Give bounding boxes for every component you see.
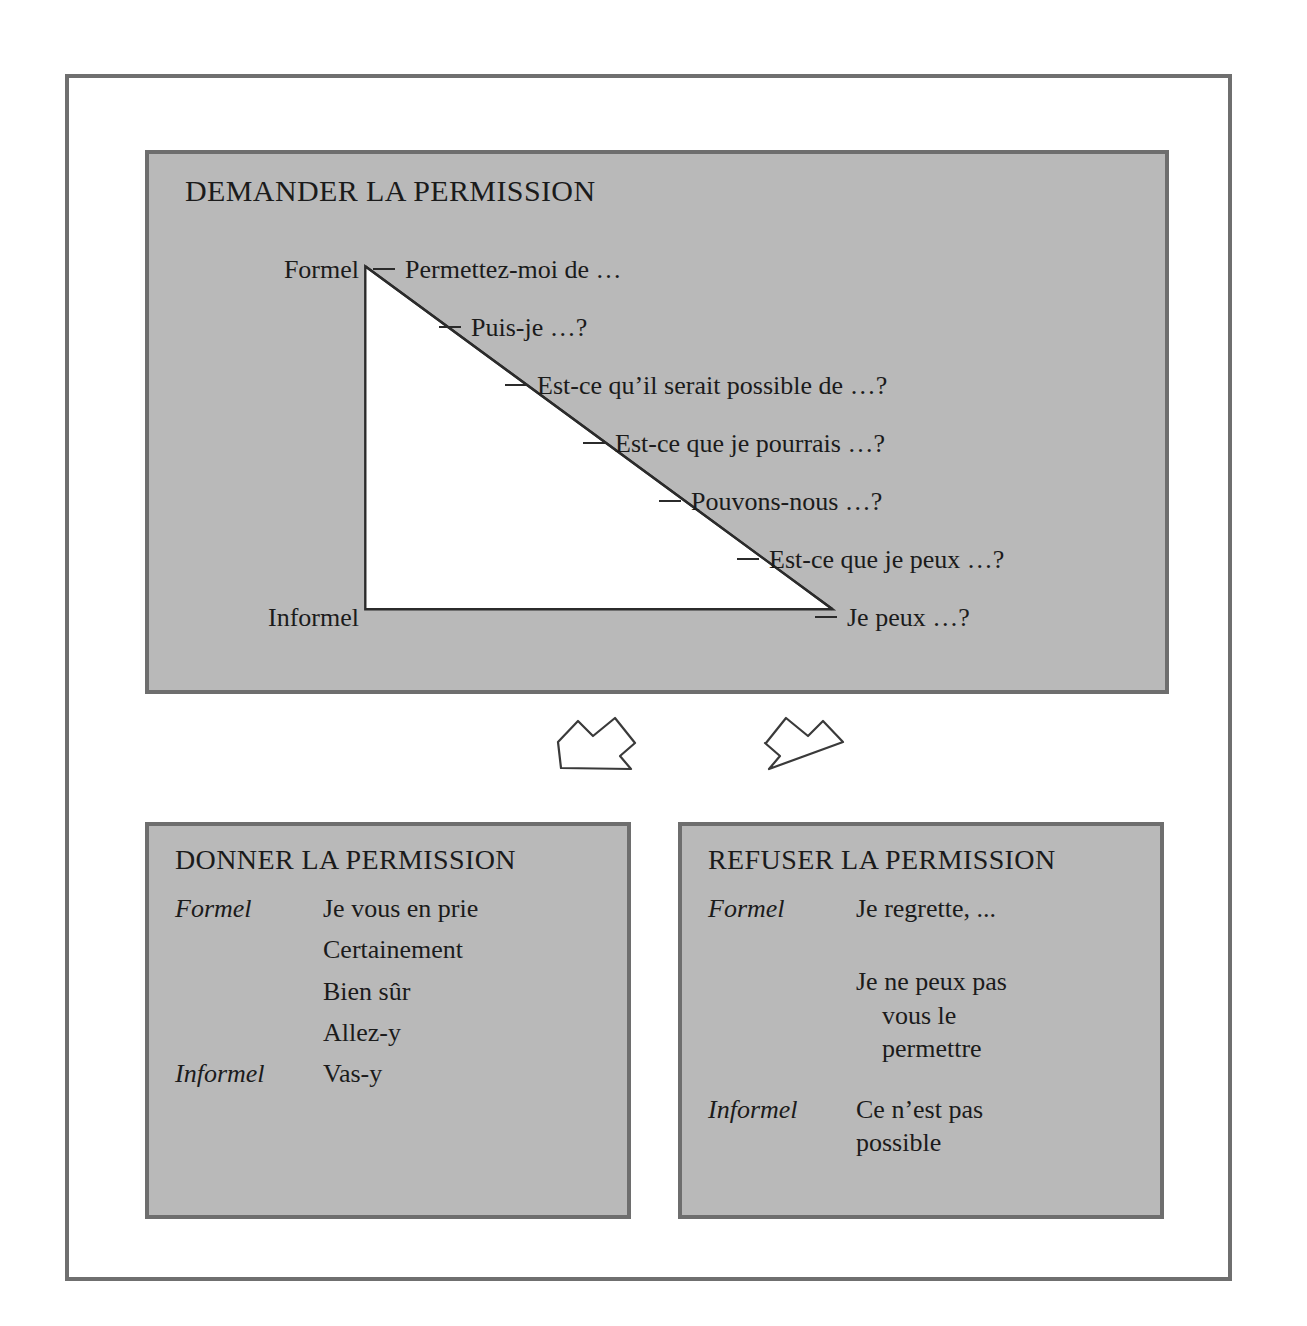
ask-phrase-row: Puis-je …? xyxy=(439,313,587,343)
ask-phrase-text: Est-ce que je pourrais …? xyxy=(615,429,885,458)
phrase-line: Je regrette, ... xyxy=(856,892,996,925)
phrase-line: Allez-y xyxy=(323,1016,401,1049)
arrow-to-give-permission xyxy=(558,718,635,769)
tick-mark xyxy=(737,558,759,560)
tick-mark xyxy=(373,268,395,270)
register-label: Formel xyxy=(708,892,856,925)
register-label: Formel xyxy=(175,892,323,925)
ask-phrase-text: Puis-je …? xyxy=(471,313,587,342)
phrase-cell: Bien sûr xyxy=(323,975,410,1008)
phrase-line: Vas-y xyxy=(323,1057,382,1090)
tick-mark xyxy=(583,442,605,444)
refuse-permission-table: Formel Je regrette, ... Je ne peux pas v… xyxy=(708,892,1138,1168)
register-label: Informel xyxy=(175,1057,323,1090)
phrase-line: Je vous en prie xyxy=(323,892,478,925)
ask-phrase-row: Permettez-moi de … xyxy=(373,255,622,285)
ask-phrase-text: Est-ce qu’il serait possible de …? xyxy=(537,371,887,400)
refuse-permission-panel: REFUSER LA PERMISSION Formel Je regrette… xyxy=(678,822,1164,1219)
tick-mark xyxy=(439,326,461,328)
give-permission-title: DONNER LA PERMISSION xyxy=(175,844,516,876)
ask-phrase-row: Pouvons-nous …? xyxy=(659,487,882,517)
ask-phrase-text: Est-ce que je peux …? xyxy=(769,545,1004,574)
phrase-cell: Ce n’est pas possible xyxy=(856,1093,983,1160)
ask-phrase-row: Est-ce qu’il serait possible de …? xyxy=(505,371,887,401)
table-row: Bien sûr xyxy=(175,975,605,1008)
ask-phrase-text: Permettez-moi de … xyxy=(405,255,622,284)
table-row: Informel Ce n’est pas possible xyxy=(708,1093,1138,1160)
phrase-cell: Certainement xyxy=(323,933,463,966)
phrase-line: possible xyxy=(856,1126,983,1159)
ask-permission-panel: DEMANDER LA PERMISSION Formel Informel P… xyxy=(145,150,1169,694)
table-row: Allez-y xyxy=(175,1016,605,1049)
ask-phrase-row: Est-ce que je pourrais …? xyxy=(583,429,885,459)
phrase-line: vous le xyxy=(856,999,1007,1032)
phrase-cell: Allez-y xyxy=(323,1016,401,1049)
axis-label-informel: Informel xyxy=(169,603,359,633)
phrase-line: permettre xyxy=(856,1032,1007,1065)
ask-phrase-text: Je peux …? xyxy=(847,603,970,632)
ask-phrase-text: Pouvons-nous …? xyxy=(691,487,882,516)
give-permission-table: Formel Je vous en prie Certainement Bien… xyxy=(175,892,605,1098)
table-row: Informel Vas-y xyxy=(175,1057,605,1090)
tick-mark xyxy=(815,616,837,618)
phrase-line: Certainement xyxy=(323,933,463,966)
phrase-line: Je ne peux pas xyxy=(856,965,1007,998)
refuse-permission-title: REFUSER LA PERMISSION xyxy=(708,844,1056,876)
axis-label-formel: Formel xyxy=(189,255,359,285)
outer-frame: DEMANDER LA PERMISSION Formel Informel P… xyxy=(65,74,1232,1281)
give-permission-panel: DONNER LA PERMISSION Formel Je vous en p… xyxy=(145,822,631,1219)
phrase-line: Ce n’est pas xyxy=(856,1093,983,1126)
table-row: Formel Je regrette, ... xyxy=(708,892,1138,925)
phrase-cell: Je regrette, ... xyxy=(856,892,996,925)
phrase-cell: Je ne peux pas vous le permettre xyxy=(856,965,1007,1065)
phrase-cell: Je vous en prie xyxy=(323,892,478,925)
table-row: Certainement xyxy=(175,933,605,966)
phrase-cell: Vas-y xyxy=(323,1057,382,1090)
register-label: Informel xyxy=(708,1093,856,1126)
table-row: Formel Je vous en prie xyxy=(175,892,605,925)
ask-phrase-row: Est-ce que je peux …? xyxy=(737,545,1004,575)
arrow-to-refuse-permission xyxy=(765,718,843,769)
tick-mark xyxy=(505,384,527,386)
tick-mark xyxy=(659,500,681,502)
table-row: Je ne peux pas vous le permettre xyxy=(708,965,1138,1065)
phrase-line: Bien sûr xyxy=(323,975,410,1008)
ask-permission-title: DEMANDER LA PERMISSION xyxy=(185,174,596,208)
ask-phrase-row: Je peux …? xyxy=(815,603,970,633)
